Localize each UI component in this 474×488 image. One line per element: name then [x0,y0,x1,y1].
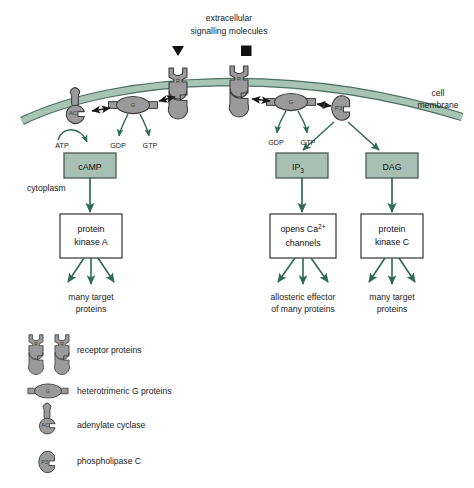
g-protein-right-glyph: G [289,98,294,105]
receptor-right-glyph: R [237,75,242,82]
gdp-label-right: GDP [268,138,284,147]
outcome-label-dag-line-2: proteins [377,304,408,314]
messenger-box-ip3[interactable] [276,153,328,178]
effector-label-ca-line-2: channels [285,238,321,248]
messenger-label-camp: cAMP [78,162,102,172]
gtp-label-left: GTP [143,141,158,150]
outcome-label-dag-line-1: many target [369,292,415,302]
legend-receptor-glyph-right: R [60,342,64,347]
adenylate-cyclase-glyph: AC [69,109,78,116]
effector-box-calcium-channels[interactable] [270,214,336,258]
receptor-pair-icon-left: R [29,335,44,375]
membrane-protein-receptor-left[interactable]: R [168,68,187,119]
membrane-label-line-2: membrane [417,100,458,110]
gdp-label-left: GDP [110,141,126,150]
title-line-1: extracellular [206,13,252,23]
receptor-pair-icon-right: R [55,335,70,375]
legend-item-g-proteins[interactable]: G heterotrimeric G proteins [28,384,172,398]
legend-adenylate-cyclase-glyph: AC [42,422,50,428]
legend-label-adenylate-cyclase: adenylate cyclase [77,420,146,430]
atp-label: ATP [55,141,69,150]
legend-label-g-proteins: heterotrimeric G proteins [77,386,172,396]
effector-label-pkc-line-1: protein [379,224,406,234]
outcome-label-camp-line-2: proteins [76,304,107,314]
effector-label-pkc-line-2: kinase C [375,237,410,247]
effector-box-protein-kinase-a[interactable] [60,214,122,258]
membrane-protein-receptor-right[interactable]: R [229,66,248,117]
messenger-label-dag: DAG [382,162,401,172]
effector-label-pka-line-2: kinase A [74,237,107,247]
effector-box-protein-kinase-c[interactable] [361,214,423,258]
title-line-2: signalling molecules [191,26,268,36]
phospholipase-c-glyph: P3 [335,104,343,111]
legend-label-phospholipase-c: phospholipase C [77,456,141,466]
outcome-label-ip3-line-1: allosteric effector [271,292,336,302]
signal-transduction-diagram: extracellular signalling molecules cell … [0,0,474,488]
ligand-square-icon [241,46,252,57]
membrane-label-line-1: cell [432,88,445,98]
legend-g-protein-glyph: G [46,388,50,394]
cytoplasm-label: cytoplasm [27,183,66,193]
legend-receptor-glyph-left: R [34,342,38,347]
g-protein-left-glyph: G [131,101,136,108]
legend-label-receptor-proteins: receptor proteins [77,345,142,355]
outcome-label-camp-line-1: many target [68,292,114,302]
legend-phospholipase-c-glyph: P3 [41,459,48,465]
outcome-label-ip3-line-2: of many proteins [271,304,335,314]
effector-label-pka-line-1: protein [78,224,105,234]
receptor-left-glyph: R [176,77,181,84]
